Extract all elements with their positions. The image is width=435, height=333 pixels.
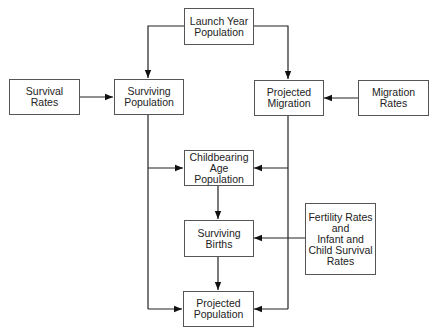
population-projection-diagram: Launch Year Population Survival Rates Su… xyxy=(0,0,435,333)
node-survival-rates: Survival Rates xyxy=(9,79,80,115)
node-projected-migration: Projected Migration xyxy=(254,80,324,116)
node-childbearing-age-population: Childbearing Age Population xyxy=(184,150,254,186)
node-migration-rates: Migration Rates xyxy=(358,80,429,116)
node-launch-year-population: Launch Year Population xyxy=(184,8,254,45)
node-projected-population: Projected Population xyxy=(183,291,254,327)
node-surviving-population: Surviving Population xyxy=(114,79,184,115)
node-surviving-births: Surviving Births xyxy=(184,220,254,257)
node-fertility-and-survival-rates: Fertility Rates and Infant and Child Sur… xyxy=(305,203,376,275)
